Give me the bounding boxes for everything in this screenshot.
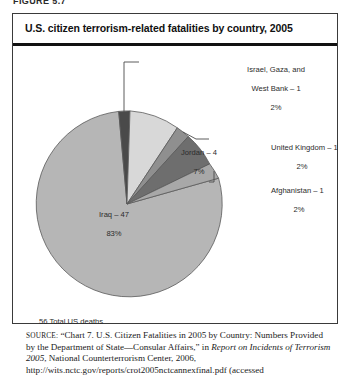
pie-label-uk-percent: 2% — [271, 162, 333, 171]
pie-label-egypt: Egypt – 2 4% — [220, 196, 274, 234]
pie-label-uk-line1: United Kingdom – 1 — [271, 143, 338, 152]
pie-label-afghanistan: Afghanistan – 1 2% — [271, 177, 353, 215]
pie-label-israel-line2: West Bank – 1 — [251, 84, 300, 93]
pie-label-egypt-line1: Egypt – 2 — [231, 205, 263, 214]
source-prefix: SOURCE: — [26, 331, 58, 340]
pie-label-israel-line1: Israel, Gaza, and — [247, 65, 305, 74]
pie-label-israel-percent: 2% — [271, 103, 282, 112]
pie-label-jordan-percent: 7% — [194, 167, 205, 176]
pie-label-united-kingdom: United Kingdom – 1 2% — [271, 134, 353, 172]
total-deaths-note: 56 Total US deaths — [39, 317, 103, 326]
pie-label-iraq-line1: Iraq – 47 — [99, 210, 129, 219]
pie-label-afghanistan-line1: Afghanistan – 1 — [271, 186, 324, 195]
pie-label-afghanistan-percent: 2% — [271, 205, 327, 214]
leader-line-israel — [124, 62, 139, 112]
source-note: SOURCE: “Chart 7. U.S. Citizen Fatalitie… — [26, 330, 332, 376]
page-title: U.S. citizen terrorism-related fatalitie… — [25, 22, 329, 34]
pie-label-egypt-percent: 4% — [242, 224, 253, 233]
source-text-b: , National Counterterrorism Center, 2006… — [26, 353, 264, 375]
pie-label-israel-gaza-west-bank: Israel, Gaza, and West Bank – 1 2% — [228, 56, 324, 112]
pie-label-iraq-percent: 83% — [106, 229, 121, 238]
pie-label-jordan: Jordan – 4 7% — [168, 139, 230, 177]
figure-box: U.S. citizen terrorism-related fatalitie… — [12, 13, 338, 324]
pie-label-jordan-line1: Jordan – 4 — [181, 148, 217, 157]
figure-number: FIGURE 5.7 — [13, 0, 66, 6]
pie-label-iraq: Iraq – 47 83% — [71, 201, 157, 239]
